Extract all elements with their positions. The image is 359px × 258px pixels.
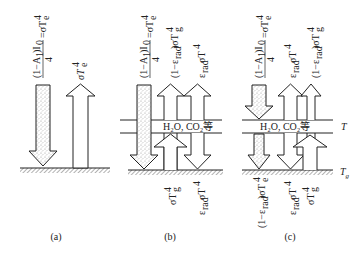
label-c-atmos-down: εradσT4 [282, 181, 301, 215]
svg-text:ε: ε [287, 211, 298, 215]
panel-b: H₂O, CO₂等 (1−A1)I0 4 =σT4e (1−εrad)σT4g … [120, 15, 223, 243]
panel-a: (1−A1)I0 4 =σT4e σT4e (a) [20, 15, 110, 243]
svg-text:e: e [40, 15, 51, 20]
solar-down-arrow-icon [130, 85, 158, 169]
label-b-ground-emission: σT4g [162, 187, 181, 205]
svg-text:4: 4 [150, 57, 161, 62]
svg-text:4: 4 [191, 44, 202, 49]
label-c-solar: (1−A1)I0 4 =σT4e [253, 15, 276, 78]
svg-text:(1−ε: (1−ε [256, 210, 268, 228]
atmos-down-arrow-icon [184, 133, 211, 169]
layer-temp-label: T [341, 121, 348, 132]
transmitted-solar-down-arrow-icon [248, 134, 270, 169]
atmos-up-arrow-icon [184, 84, 211, 120]
svg-text:σT: σT [75, 68, 86, 80]
caption-c: (c) [284, 231, 295, 243]
label-c-transmitted-solar: (1−εrad)σT4e [251, 177, 270, 228]
transmitted-up-arrow-icon [301, 84, 321, 120]
ground-hatch [242, 170, 333, 175]
svg-text:σT: σT [287, 189, 298, 201]
svg-text:ε: ε [196, 74, 207, 78]
svg-text:=σT: =σT [259, 21, 270, 38]
transmitted-up-arrow-icon [157, 84, 184, 120]
svg-text:σT: σT [167, 194, 178, 206]
label-c-transmitted: (1−εrad)σT4g [305, 27, 324, 78]
svg-text:(1−A: (1−A [253, 56, 265, 78]
label-b-transmitted: (1−εrad)σT4g [164, 27, 183, 78]
ground-up-arrow-icon [154, 134, 187, 170]
svg-text:=σT: =σT [144, 21, 155, 38]
label-c-atmos-up: εradσT4 [282, 44, 301, 78]
caption-a: (a) [50, 231, 61, 243]
label-b-atmos-down: εradσT4 [191, 181, 210, 215]
svg-text:)σT: )σT [256, 184, 268, 199]
svg-text:=σT: =σT [37, 21, 48, 38]
svg-text:g: g [172, 27, 183, 32]
svg-text:e: e [262, 15, 273, 20]
svg-text:)I: )I [31, 46, 43, 53]
layer-label-c: H₂O, CO₂等 [260, 120, 310, 132]
solar-down-arrow-icon [29, 85, 57, 166]
svg-text:σT: σT [196, 189, 207, 201]
atmos-down-arrow-icon [277, 133, 304, 169]
label-a-emission: σT4e [70, 62, 89, 80]
svg-text:(1−A: (1−A [138, 56, 150, 78]
svg-text:4: 4 [282, 181, 293, 186]
svg-text:)σT: )σT [169, 34, 181, 49]
atmos-up-arrow-icon [278, 84, 303, 120]
ground-hatch [20, 168, 110, 173]
svg-text:)I: )I [253, 46, 265, 53]
svg-text:4: 4 [282, 44, 293, 49]
layer-label-b: H₂O, CO₂等 [163, 120, 213, 132]
svg-text:e: e [78, 62, 89, 67]
emission-up-arrow-icon [66, 84, 95, 168]
svg-text:e: e [259, 177, 270, 182]
svg-text:)σT: )σT [310, 34, 322, 49]
svg-text:(1−A: (1−A [31, 56, 43, 78]
ground-up-arrow-icon [293, 135, 327, 170]
svg-text:(1−ε: (1−ε [169, 60, 181, 78]
svg-text:)I: )I [138, 46, 150, 53]
svg-text:σT: σT [196, 52, 207, 64]
radiation-balance-diagram: (1−A1)I0 4 =σT4e σT4e (a) H₂O, C [0, 0, 359, 258]
svg-text:4: 4 [43, 57, 54, 62]
svg-text:e: e [147, 15, 158, 20]
svg-text:ε: ε [287, 74, 298, 78]
svg-text:g: g [313, 27, 324, 32]
ground-hatch [128, 170, 223, 175]
panel-c: H₂O, CO₂等 T Tg (1−A1)I0 4 =σT4e εradσT4 … [242, 15, 350, 243]
label-b-atmos-up: εradσT4 [191, 44, 210, 78]
label-a-solar: (1−A1)I0 4 =σT4e [31, 15, 54, 78]
svg-text:4: 4 [191, 181, 202, 186]
label-c-ground-emission: σT4g [300, 187, 319, 205]
svg-text:g: g [308, 187, 319, 192]
svg-text:σT: σT [287, 52, 298, 64]
solar-down-arrow-icon [245, 85, 273, 119]
svg-text:4: 4 [265, 57, 276, 62]
svg-text:ε: ε [196, 211, 207, 215]
ground-temp-label: Tg [340, 166, 350, 180]
caption-b: (b) [164, 231, 176, 243]
label-b-solar: (1−A1)I0 4 =σT4e [138, 15, 161, 78]
svg-text:σT: σT [305, 194, 316, 206]
svg-text:0: 0 [256, 40, 267, 45]
svg-text:g: g [170, 187, 181, 192]
svg-text:(1−ε: (1−ε [310, 60, 322, 78]
svg-text:0: 0 [141, 40, 152, 45]
